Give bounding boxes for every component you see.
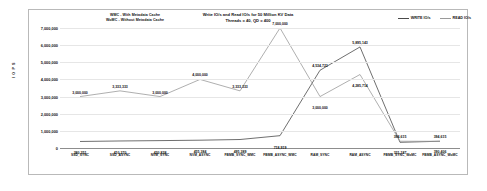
x-axis-tick-label: FBMB_ASYNC_WMC [263,153,296,157]
gridline [60,131,460,132]
x-axis-line [60,148,460,149]
chart-subtitle: Threads = 40, QD = 400 [178,18,318,24]
x-axis-tick-label: RAM_SYNC [311,153,330,157]
gridline [60,114,460,115]
legend-label-write: WRITE IO/s [411,16,431,20]
chart-legend: WRITE IO/s READ IO/s [398,16,471,20]
x-axis-tick-label: SSD_SYNC [71,153,89,157]
x-axis-tick-label: NVM_SYNC [151,153,170,157]
x-axis-tick-label: FBMB_SYNC_WoMC [383,153,416,157]
x-axis-tick-label: NVM_ASYNC [190,153,211,157]
y-axis-tick-label: 5,000,000 [41,60,58,65]
chart-title-block: Write IO/s and Read IO/s for 50 Million … [178,12,318,24]
y-axis-tick-label: 0 [56,146,58,151]
legend-label-read: READ IO/s [453,16,471,20]
legend-swatch-write-icon [398,18,409,19]
y-axis-tick-label: 1,000,000 [41,128,58,133]
gridline [60,45,460,46]
gridline [60,97,460,98]
y-axis-tick-label: 7,000,000 [41,26,58,31]
y-axis-tick-label: 6,000,000 [41,43,58,48]
legend-swatch-read-icon [440,18,451,19]
legend-item-read[interactable]: READ IO/s [440,16,471,20]
gridline [60,28,460,29]
x-axis-tick-label: SSD_ASYNC [110,153,130,157]
x-axis-ticks: SSD_SYNCSSD_ASYNCNVM_SYNCNVM_ASYNCFBMB_S… [60,153,460,167]
x-axis-tick-label: FBMB_SYNC_WMC [224,153,255,157]
plot-area [60,28,460,148]
gridline [60,79,460,80]
y-axis-tick-label: 2,000,000 [41,111,58,116]
y-axis-tick-label: 3,000,000 [41,94,58,99]
x-axis-tick-label: RAM_ASYNC [349,153,370,157]
gridline [60,62,460,63]
legend-item-write[interactable]: WRITE IO/s [398,16,431,20]
x-axis-tick-label: FBMB_ASYNC_WoMC [422,153,457,157]
series-line-write [80,47,440,142]
y-axis-tick-label: 4,000,000 [41,77,58,82]
y-axis-ticks: 7,000,0006,000,0005,000,0004,000,0003,00… [0,0,58,191]
